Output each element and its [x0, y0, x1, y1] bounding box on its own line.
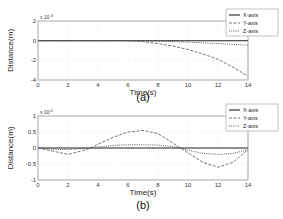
exp-base: x 10 [40, 14, 50, 20]
x-tick-label: 12 [215, 182, 222, 188]
exp-power: -5 [49, 108, 53, 113]
x-axis-label: Time(s) [130, 188, 157, 197]
y-axis-label: Distance(m) [6, 126, 15, 169]
exp-power: -3 [49, 13, 53, 18]
plot-a: 0246810121420-2-4x 10-3Distance(m)Time(s… [6, 9, 278, 103]
exp-base: x 10 [40, 109, 50, 115]
plot-area [38, 21, 248, 80]
x-tick-label: 10 [185, 82, 192, 88]
y-multiplier-label: x 10-3 [40, 13, 54, 20]
legend-entry: Y-axis [243, 20, 258, 26]
y-tick-label: 0 [33, 145, 37, 151]
x-tick-label: 4 [96, 82, 100, 88]
x-tick-label: 10 [185, 182, 192, 188]
x-tick-label: 0 [36, 82, 40, 88]
y-tick-label: 0 [33, 38, 37, 44]
figure-caption: (b) [136, 199, 149, 211]
x-tick-label: 2 [66, 82, 70, 88]
x-tick-label: 12 [215, 82, 222, 88]
y-tick-label: -4 [31, 77, 37, 83]
legend-entry: Z-axis [243, 123, 258, 129]
x-tick-label: 8 [156, 82, 160, 88]
x-tick-label: 2 [66, 182, 70, 188]
legend-entry: X-axis [243, 107, 259, 113]
figure-caption: (a) [136, 91, 149, 103]
x-tick-label: 8 [156, 182, 160, 188]
legend-entry: X-axis [243, 12, 259, 18]
y-axis-label: Distance(m) [6, 29, 15, 72]
y-tick-label: 2 [33, 18, 37, 24]
y-tick-label: -2 [31, 57, 37, 63]
figure: 0246810121420-2-4x 10-3Distance(m)Time(s… [0, 0, 283, 219]
x-tick-label: 14 [245, 182, 252, 188]
legend: X-axisY-axisZ-axis [226, 104, 278, 131]
y-tick-label: 1 [33, 113, 37, 119]
y-tick-label: -0.5 [26, 161, 37, 167]
legend: X-axisY-axisZ-axis [226, 9, 278, 36]
y-tick-label: -1 [31, 177, 37, 183]
legend-entry: Y-axis [243, 115, 258, 121]
legend-entry: Z-axis [243, 28, 258, 34]
plot-b: 0246810121410.50-0.5-1x 10-5Distance(m)T… [6, 104, 278, 211]
y-multiplier-label: x 10-5 [40, 108, 54, 115]
x-tick-label: 14 [245, 82, 252, 88]
x-tick-label: 0 [36, 182, 40, 188]
x-tick-label: 4 [96, 182, 100, 188]
y-tick-label: 0.5 [28, 129, 37, 135]
